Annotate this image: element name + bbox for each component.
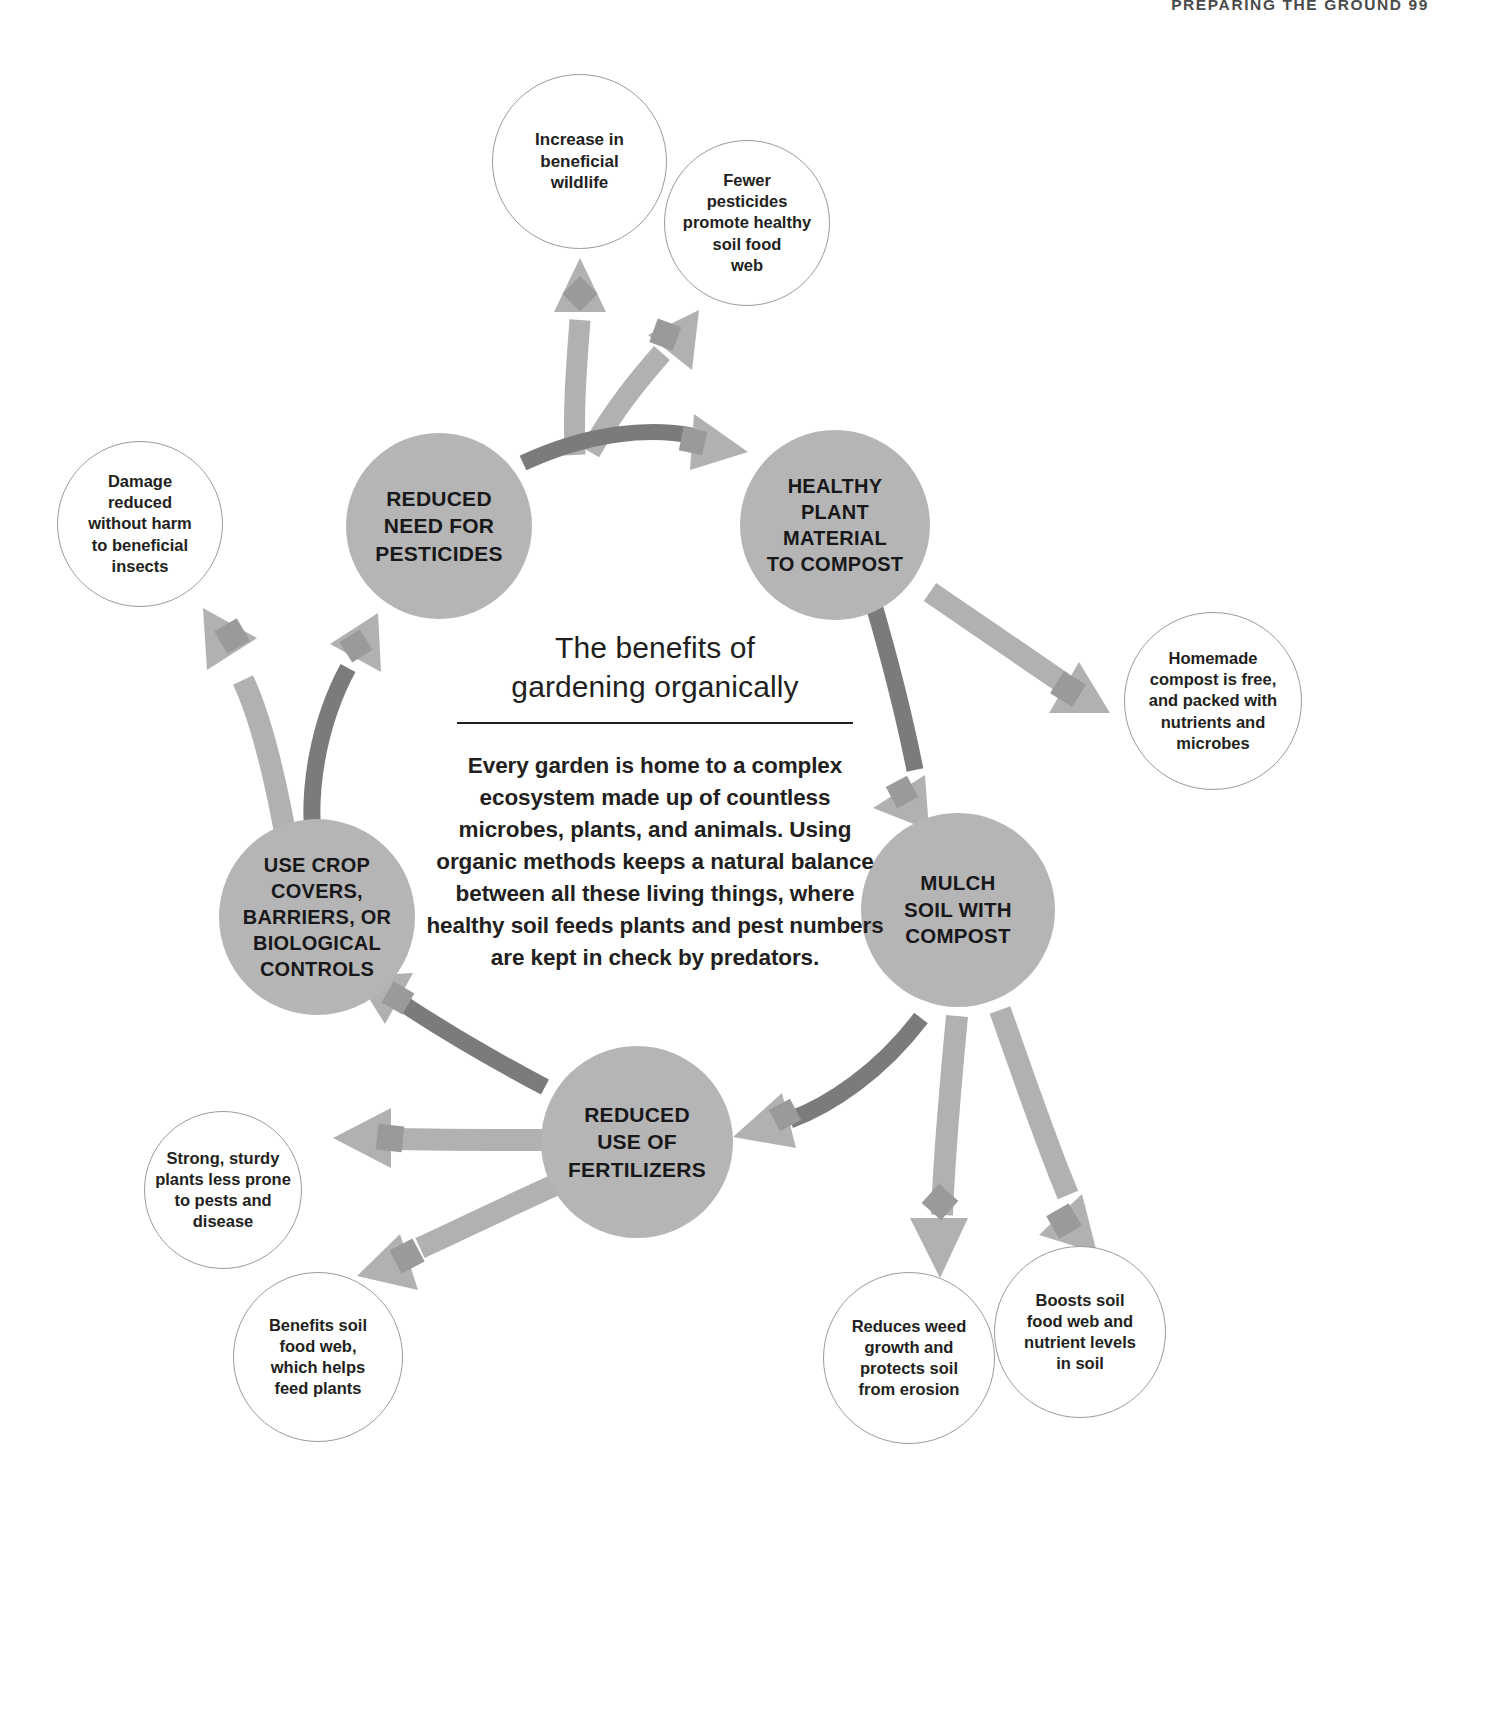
satellite-label: Damagereducedwithout harmto beneficialin…	[79, 471, 201, 577]
satellite-label: Benefits soilfood web,which helpsfeed pl…	[260, 1315, 376, 1399]
cycle-arrow-mulch-to-fertilizers	[733, 1018, 921, 1148]
satellite-benefits-soil-food-web-which-helps-feed-plants[interactable]: Benefits soilfood web,which helpsfeed pl…	[233, 1272, 403, 1442]
cycle-arrow-pesticides-to-plantmaterial	[523, 414, 748, 470]
satellite-label: Boosts soilfood web andnutrient levelsin…	[1015, 1290, 1145, 1374]
arrow-to-reduces-weed	[910, 1016, 968, 1278]
satellite-label: Increase inbeneficialwildlife	[526, 129, 633, 194]
hub-reduced-use-of-fertilizers[interactable]: REDUCEDUSE OFFERTILIZERS	[541, 1046, 733, 1238]
arrow-to-damage-reduced	[203, 608, 290, 860]
center-panel: The benefits ofgardening organically Eve…	[425, 628, 885, 974]
hub-label: USE CROPCOVERS,BARRIERS, ORBIOLOGICALCON…	[235, 852, 400, 982]
diagram-page: PREPARING THE GROUND 99	[0, 0, 1485, 1723]
satellite-fewer-pesticides-promote-healthy-soil-food-web[interactable]: Fewerpesticidespromote healthysoil foodw…	[664, 140, 830, 306]
satellite-label: Fewerpesticidespromote healthysoil foodw…	[674, 170, 820, 276]
hub-reduced-need-for-pesticides[interactable]: REDUCEDNEED FORPESTICIDES	[346, 433, 532, 619]
satellite-increase-in-beneficial-wildlife[interactable]: Increase inbeneficialwildlife	[492, 74, 667, 249]
satellite-boosts-soil-food-web-and-nutrient-levels[interactable]: Boosts soilfood web andnutrient levelsin…	[994, 1246, 1166, 1418]
satellite-reduces-weed-growth-and-protects-soil[interactable]: Reduces weedgrowth andprotects soilfrom …	[823, 1272, 995, 1444]
satellite-label: Reduces weedgrowth andprotects soilfrom …	[843, 1316, 976, 1400]
hub-healthy-plant-material-to-compost[interactable]: HEALTHYPLANT MATERIALTO COMPOST	[740, 430, 930, 620]
center-divider	[457, 722, 853, 724]
hub-label: MULCHSOIL WITHCOMPOST	[896, 870, 1020, 950]
arrow-to-strong-sturdy	[333, 1108, 548, 1168]
arrow-to-homemade-compost	[930, 592, 1110, 713]
satellite-damage-reduced-without-harm-to-beneficial-insects[interactable]: Damagereducedwithout harmto beneficialin…	[57, 441, 223, 607]
satellite-label: Homemadecompost is free,and packed withn…	[1140, 648, 1286, 754]
hub-label: HEALTHYPLANT MATERIALTO COMPOST	[740, 473, 930, 577]
center-title: The benefits ofgardening organically	[425, 628, 885, 706]
hub-mulch-soil-with-compost[interactable]: MULCHSOIL WITHCOMPOST	[861, 813, 1055, 1007]
cycle-arrow-fertilizers-to-cropcovers	[355, 973, 545, 1087]
satellite-homemade-compost-is-free[interactable]: Homemadecompost is free,and packed withn…	[1124, 612, 1302, 790]
arrow-to-benefits-soil-web	[357, 1185, 555, 1290]
hub-use-crop-covers-barriers-biological-controls[interactable]: USE CROPCOVERS,BARRIERS, ORBIOLOGICALCON…	[219, 819, 415, 1015]
center-body-text: Every garden is home to a complex ecosys…	[425, 750, 885, 974]
arrow-to-boosts-soil	[1000, 1010, 1097, 1253]
hub-label: REDUCEDUSE OFFERTILIZERS	[560, 1101, 714, 1183]
satellite-strong-sturdy-plants-less-prone[interactable]: Strong, sturdyplants less proneto pests …	[144, 1111, 302, 1269]
satellite-label: Strong, sturdyplants less proneto pests …	[146, 1148, 300, 1232]
hub-label: REDUCEDNEED FORPESTICIDES	[367, 485, 510, 567]
